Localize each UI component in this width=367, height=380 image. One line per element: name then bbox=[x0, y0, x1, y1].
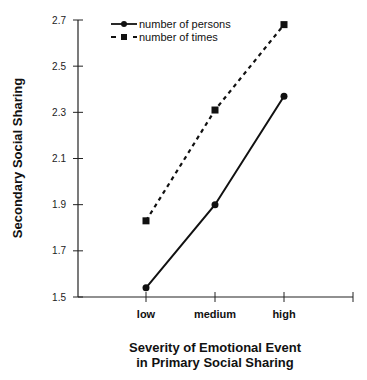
square-marker bbox=[212, 107, 219, 114]
y-tick-label: 2.7 bbox=[52, 15, 66, 26]
y-axis-title: Secondary Social Sharing bbox=[10, 78, 25, 238]
series-line bbox=[146, 96, 284, 288]
legend-circle-marker-icon bbox=[121, 21, 127, 27]
y-tick-label: 2.1 bbox=[52, 153, 66, 164]
square-marker bbox=[281, 21, 288, 28]
legend-label: number of persons bbox=[139, 18, 231, 30]
y-tick-label: 1.9 bbox=[52, 199, 66, 210]
x-category-label: high bbox=[272, 308, 295, 320]
legend: number of personsnumber of times bbox=[111, 18, 231, 43]
circle-marker bbox=[143, 284, 150, 291]
line-chart: 1.51.71.92.12.32.52.7lowmediumhigh numbe… bbox=[0, 0, 367, 380]
circle-marker bbox=[212, 201, 219, 208]
x-category-label: low bbox=[137, 308, 156, 320]
y-tick-label: 1.5 bbox=[52, 292, 66, 303]
legend-label: number of times bbox=[139, 31, 218, 43]
series-number-of-times bbox=[143, 21, 288, 224]
x-axis-title: Severity of Emotional Event bbox=[129, 340, 302, 355]
y-tick-label: 1.7 bbox=[52, 245, 66, 256]
x-axis-title: in Primary Social Sharing bbox=[136, 355, 294, 370]
legend-square-marker-icon bbox=[121, 34, 127, 40]
x-category-label: medium bbox=[194, 308, 236, 320]
circle-marker bbox=[281, 93, 288, 100]
y-tick-label: 2.5 bbox=[52, 61, 66, 72]
square-marker bbox=[143, 217, 150, 224]
y-tick-label: 2.3 bbox=[52, 107, 66, 118]
series-line bbox=[146, 25, 284, 221]
